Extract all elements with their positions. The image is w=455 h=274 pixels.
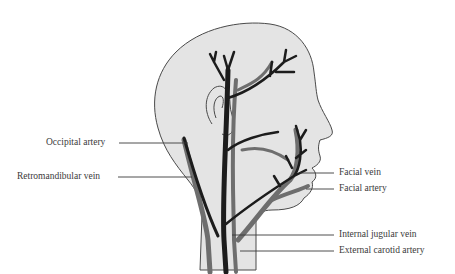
label-occipital-artery: Occipital artery <box>46 138 105 148</box>
label-facial-artery: Facial artery <box>339 184 387 194</box>
label-retromandibular-vein: Retromandibular vein <box>17 172 100 182</box>
label-external-carotid-artery: External carotid artery <box>339 246 424 256</box>
label-facial-vein: Facial vein <box>339 168 381 178</box>
label-internal-jugular-vein: Internal jugular vein <box>339 230 417 240</box>
